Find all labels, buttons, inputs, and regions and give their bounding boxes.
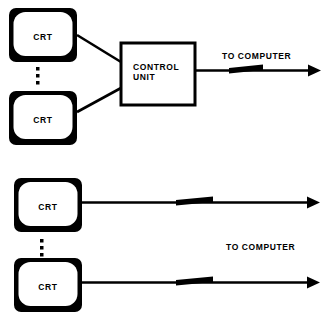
arrow-head — [307, 277, 320, 289]
terminal-ellipsis-bottom — [40, 239, 44, 257]
output-arrow-top — [195, 65, 321, 77]
control-unit-box[interactable]: CONTROL UNIT — [121, 43, 195, 105]
control-unit-label-line1: CONTROL — [133, 62, 179, 72]
bus-band-marker — [176, 277, 213, 286]
ellipsis-dot — [36, 67, 40, 71]
crt-terminal-bottom-2[interactable]: CRT — [14, 258, 82, 312]
output-arrow-bottom-2 — [82, 277, 320, 289]
ellipsis-dot — [40, 253, 44, 257]
section-direct-connection: CRT CRT — [14, 178, 320, 312]
crt-label: CRT — [33, 32, 52, 42]
arrow-head — [307, 197, 320, 209]
output-arrow-label-top: TO COMPUTER — [222, 51, 291, 61]
ellipsis-dot — [36, 81, 40, 85]
ellipsis-dot — [36, 74, 40, 78]
crt-label: CRT — [33, 115, 52, 125]
crt-label: CRT — [38, 282, 57, 292]
ellipsis-dot — [40, 246, 44, 250]
crt-terminal-bottom-1[interactable]: CRT — [14, 178, 82, 232]
bus-band-marker — [176, 197, 213, 206]
ellipsis-dot — [40, 239, 44, 243]
section-clustered-control-unit: CRT CRT CONTROL UNIT — [9, 8, 321, 145]
crt-label: CRT — [38, 202, 57, 212]
control-unit-label-line2: UNIT — [133, 72, 155, 82]
output-arrow-bottom-1 — [82, 197, 320, 209]
connector-line-crt1-to-control-unit — [77, 35, 121, 62]
bus-band-marker — [229, 65, 263, 74]
crt-terminal-top-1[interactable]: CRT — [9, 8, 77, 62]
terminal-ellipsis-top — [36, 67, 40, 85]
block-diagram: CRT CRT CONTROL UNIT — [0, 0, 324, 321]
output-arrow-label-bottom: TO COMPUTER — [226, 242, 295, 252]
arrow-head — [308, 65, 321, 77]
crt-terminal-top-2[interactable]: CRT — [9, 91, 77, 145]
diagram-canvas: CRT CRT CONTROL UNIT — [0, 0, 324, 321]
connector-line-crt2-to-control-unit — [77, 88, 121, 112]
